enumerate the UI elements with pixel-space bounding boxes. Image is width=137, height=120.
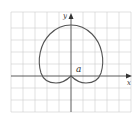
y-axis-arrow-icon: [69, 13, 74, 19]
cardioid-diagram: y x a: [0, 0, 137, 120]
y-axis-label: y: [62, 12, 68, 20]
annotation-a: a: [76, 64, 81, 74]
x-axis-label: x: [127, 79, 131, 87]
